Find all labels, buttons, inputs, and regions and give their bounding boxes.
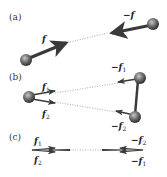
force-arrow-f2 bbox=[32, 99, 55, 103]
rigid-rod bbox=[135, 80, 138, 115]
panel-c: (c) f1 f2 −f2 −f1 bbox=[9, 132, 146, 167]
panel-a: (a) f −f bbox=[9, 10, 159, 66]
force-label-neg-f: −f bbox=[123, 10, 137, 20]
force-arrow-neg-f1 bbox=[118, 79, 137, 82]
force-label-f: f bbox=[41, 34, 48, 44]
sphere bbox=[129, 111, 141, 123]
sphere bbox=[134, 72, 146, 84]
panel-a-label: (a) bbox=[9, 12, 21, 22]
panel-b-label: (b) bbox=[9, 72, 22, 82]
force-diagram: (a) f −f (b) f1 f2 −f1 −f2 (c) bbox=[0, 0, 167, 177]
force-label-f2: f2 bbox=[33, 155, 42, 166]
force-label-f1: f1 bbox=[41, 82, 50, 93]
force-label-f1: f1 bbox=[33, 136, 42, 147]
sphere bbox=[20, 54, 32, 66]
panel-b: (b) f1 f2 −f1 −f2 bbox=[9, 62, 146, 132]
force-arrow-neg-f bbox=[112, 25, 152, 33]
sphere bbox=[23, 91, 35, 103]
force-label-f2: f2 bbox=[41, 109, 50, 120]
sphere bbox=[147, 18, 159, 30]
force-label-neg-f2: −f2 bbox=[131, 135, 146, 146]
force-label-neg-f2: −f2 bbox=[111, 121, 126, 132]
dotted-line bbox=[55, 82, 125, 93]
dotted-line bbox=[55, 102, 122, 113]
force-label-neg-f1: −f1 bbox=[111, 62, 126, 73]
dotted-line bbox=[70, 33, 108, 42]
force-arrow-f bbox=[27, 43, 66, 59]
force-label-neg-f1: −f1 bbox=[131, 156, 146, 167]
panel-c-label: (c) bbox=[9, 132, 21, 142]
